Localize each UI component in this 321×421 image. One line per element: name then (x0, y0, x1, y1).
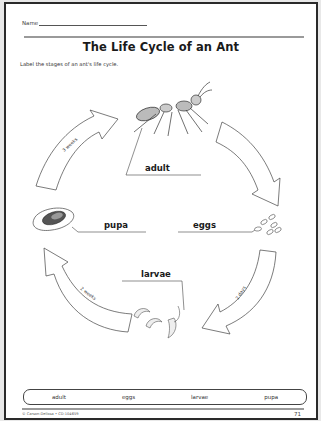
footer-rule (22, 408, 304, 410)
word-bank: adult eggs larvae pupa (23, 389, 307, 405)
ant-eggs-icon (254, 214, 282, 236)
stage-label-eggs: eggs (193, 220, 216, 230)
stage-label-pupa: pupa (104, 220, 128, 230)
arrow-pupa-to-adult (36, 110, 118, 190)
stage-label-adult: adult (145, 163, 170, 173)
copyright: © Carson-Dellosa • CD-104659 (22, 412, 79, 416)
ant-pupa-icon (33, 208, 74, 230)
word-bank-item-pupa: pupa (264, 394, 278, 400)
word-bank-item-larvae: larvae (191, 394, 208, 400)
word-bank-item-adult: adult (52, 394, 66, 400)
word-bank-item-eggs: eggs (122, 394, 135, 400)
life-cycle-diagram: 3 weeks 2 days 2 weeks (6, 4, 316, 418)
stage-label-larvae: larvae (141, 269, 171, 279)
ant-adult-icon (134, 82, 212, 136)
worksheet-page: Name The Life Cycle of an Ant Label the … (4, 2, 318, 420)
arrow-adult-to-eggs (216, 122, 280, 206)
ant-larvae-icon (134, 306, 180, 338)
page-number: 71 (294, 411, 301, 417)
